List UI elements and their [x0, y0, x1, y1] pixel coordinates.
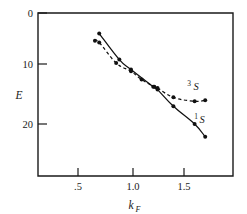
- series-label-3S-sup: 3: [187, 79, 191, 88]
- data-point: [129, 69, 133, 73]
- y-tick-label-10: 10: [23, 59, 34, 70]
- data-point: [171, 95, 175, 99]
- y-axis-ticks: [38, 13, 47, 124]
- series-label-1S-sup: 1: [194, 112, 198, 121]
- data-point: [97, 32, 101, 36]
- data-point: [203, 135, 207, 139]
- x-axis-ticks: [78, 168, 184, 176]
- series-label-3S-main: S: [193, 81, 199, 92]
- data-point: [171, 104, 175, 108]
- series-label-1S-main: S: [199, 114, 205, 125]
- x-tick-label-15: 1.5: [177, 181, 190, 192]
- data-point: [193, 99, 197, 103]
- data-point: [93, 39, 97, 43]
- x-axis-label-base: k: [128, 199, 134, 211]
- data-point: [97, 40, 101, 44]
- x-axis-title: k F: [128, 199, 140, 214]
- data-point: [156, 86, 160, 90]
- x-tick-label-10: 1.0: [126, 181, 139, 192]
- y-tick-label-0: 0: [28, 8, 33, 19]
- data-point: [114, 61, 118, 65]
- data-point: [203, 98, 207, 102]
- y-axis-tick-labels: 0 10 20: [23, 8, 34, 130]
- data-point: [117, 58, 121, 62]
- data-point: [140, 78, 144, 82]
- x-axis-label-sub: F: [135, 205, 141, 214]
- x-tick-label-05: .5: [74, 181, 82, 192]
- chart-figure: 0 10 20 .5 1.0 1.5 E k F 3 S 1 S: [0, 0, 247, 214]
- y-axis-label: E: [14, 89, 22, 101]
- data-point: [193, 122, 197, 126]
- series-annotation-3S: 3 S: [187, 79, 199, 92]
- chart-canvas: 0 10 20 .5 1.0 1.5 E k F 3 S 1 S: [0, 0, 247, 214]
- x-axis-tick-labels: .5 1.0 1.5: [74, 181, 191, 192]
- y-axis-title: E: [14, 89, 22, 101]
- plot-frame: [38, 13, 233, 176]
- frame-box: [38, 13, 233, 176]
- y-tick-label-20: 20: [23, 119, 34, 130]
